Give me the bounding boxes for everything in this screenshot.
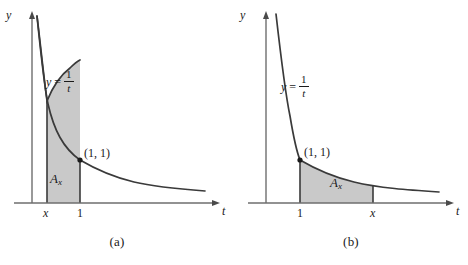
tick-label-1-a: 1	[77, 207, 83, 219]
panel-caption-a: (a)	[0, 234, 234, 250]
y-axis-arrow-a	[29, 11, 35, 19]
tick-label-x-b: x	[370, 207, 375, 219]
t-axis-label-b: t	[456, 205, 459, 217]
equation-equals-a: =	[54, 76, 61, 88]
equation-lhs-a: y	[46, 76, 51, 88]
point-marker-a	[77, 157, 82, 162]
y-axis-label-a: y	[6, 9, 11, 21]
area-label-base-b: A	[330, 175, 338, 190]
area-label-sub-b: x	[338, 181, 342, 191]
y-axis-label-b: y	[240, 9, 245, 21]
t-axis-arrow-a	[212, 200, 220, 206]
point-label-a: (1, 1)	[84, 147, 110, 159]
math-figure: y t x 1 (1, 1) Ax y = 1 t (a)	[0, 0, 468, 265]
equation-fraction-b: 1 t	[299, 74, 309, 99]
plot-a	[0, 0, 234, 232]
equation-numerator-a: 1	[64, 69, 74, 81]
tick-label-x-a: x	[43, 207, 48, 219]
panel-b: y t 1 x (1, 1) Ax y = 1 t (b)	[234, 0, 468, 265]
equation-equals-b: =	[289, 81, 296, 93]
y-axis-arrow-b	[263, 11, 269, 19]
area-label-a: Ax	[50, 172, 62, 187]
area-label-b: Ax	[330, 176, 342, 191]
panel-a: y t x 1 (1, 1) Ax y = 1 t (a)	[0, 0, 234, 265]
curve-a-tail	[80, 160, 205, 191]
equation-lhs-b: y	[281, 81, 286, 93]
equation-numerator-b: 1	[299, 74, 309, 86]
t-axis-arrow-b	[446, 200, 454, 206]
point-label-b: (1, 1)	[304, 146, 330, 158]
area-label-sub-a: x	[58, 177, 62, 187]
area-label-base-a: A	[50, 171, 58, 186]
equation-b: y = 1 t	[281, 74, 309, 99]
plot-b	[234, 0, 468, 232]
equation-a: y = 1 t	[46, 69, 74, 94]
equation-denominator-b: t	[300, 87, 307, 99]
equation-fraction-a: 1 t	[64, 69, 74, 94]
point-marker-b	[297, 157, 302, 162]
t-axis-label-a: t	[222, 205, 225, 217]
panel-caption-b: (b)	[234, 234, 468, 250]
tick-label-1-b: 1	[297, 207, 303, 219]
equation-denominator-a: t	[65, 82, 72, 94]
